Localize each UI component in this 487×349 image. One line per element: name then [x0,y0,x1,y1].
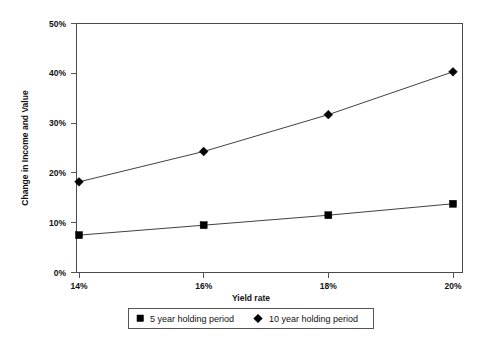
line-chart: 50% 40% 30% 20% 10% 0% 14% 16% 18% 20% Y… [0,0,487,349]
data-point-diamond [324,110,333,119]
data-point-square [325,212,332,219]
data-point-diamond [449,67,458,76]
y-axis-title: Change in Income and Value [20,90,30,206]
x-tick-label-18: 18% [320,281,337,291]
y-tick-label-30: 30% [49,118,66,128]
x-tick-label-16: 16% [195,281,212,291]
y-tick-label-10: 10% [49,218,66,228]
series-line-10-year [79,72,453,182]
plot-area-frame [77,24,463,273]
y-tick-label-20: 20% [49,168,66,178]
y-tick-label-50: 50% [49,19,66,29]
x-tick-label-14: 14% [70,281,87,291]
x-axis-ticks [79,273,453,278]
data-point-square [76,232,83,239]
data-point-square [200,222,207,229]
chart-container: 50% 40% 30% 20% 10% 0% 14% 16% 18% 20% Y… [0,0,487,349]
series-line-5-year [79,204,453,235]
legend: 5 year holding period 10 year holding pe… [129,309,374,329]
legend-label-10-year: 10 year holding period [269,314,358,324]
legend-label-5-year: 5 year holding period [150,314,234,324]
x-axis-title: Yield rate [232,293,270,303]
y-tick-label-40: 40% [49,68,66,78]
data-point-diamond [199,147,208,156]
y-tick-label-0: 0% [54,268,67,278]
legend-square-marker-icon [137,315,144,322]
series-markers-5-year [76,200,457,238]
x-tick-label-20: 20% [444,281,461,291]
data-point-diamond [75,177,84,186]
data-point-square [450,200,457,207]
series-markers-10-year [75,67,458,186]
